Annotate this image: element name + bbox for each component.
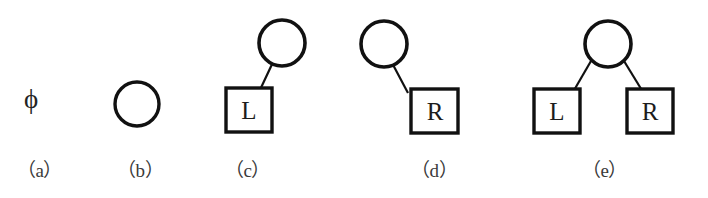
node-root-circle: [115, 82, 159, 126]
panel-b-graph: [108, 0, 208, 160]
node-left-label: L: [549, 98, 564, 125]
caption-b: （b）: [117, 161, 163, 180]
node-right-label: R: [642, 98, 659, 125]
empty-set-symbol: ϕ: [24, 86, 38, 113]
panel-d: R （d）: [358, 0, 510, 198]
node-root-circle: [259, 20, 305, 66]
node-root-circle: [585, 21, 631, 67]
figure-canvas: ϕ （a） （b） L （c） R （d）: [0, 0, 708, 198]
caption-e: （e）: [582, 161, 627, 180]
node-right-label: R: [427, 98, 444, 125]
node-left-label: L: [241, 97, 256, 124]
panel-e: L R （e）: [510, 0, 708, 198]
panel-e-graph: L R: [510, 0, 708, 160]
panel-c-graph: L: [208, 0, 358, 160]
caption-a: （a）: [17, 161, 62, 180]
node-root-circle: [361, 21, 407, 67]
panel-a: ϕ （a）: [0, 0, 108, 198]
panel-c: L （c）: [208, 0, 358, 198]
panel-d-graph: R: [358, 0, 510, 160]
panel-b: （b）: [108, 0, 208, 198]
caption-d: （d）: [411, 161, 457, 180]
caption-c: （c）: [225, 161, 270, 180]
